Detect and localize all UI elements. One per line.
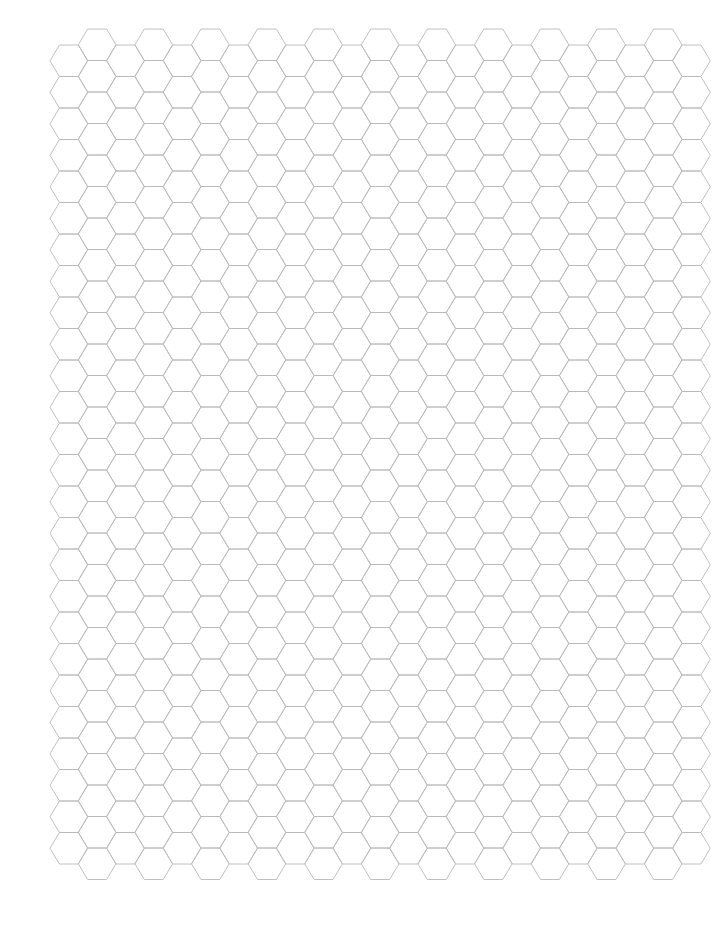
hexagon-grid [0,0,721,925]
hex-graph-paper-page [0,0,721,925]
hexagon-cells [50,29,710,880]
